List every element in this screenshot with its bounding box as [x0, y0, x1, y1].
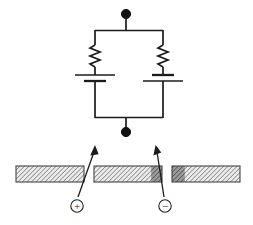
bar-left: [16, 166, 84, 182]
bar-right-segment-dark: [172, 166, 185, 182]
plus-charge-glyph: +: [74, 200, 80, 212]
circuit-and-bars-figure: + −: [0, 0, 253, 225]
bar-right-segment-light: [185, 166, 240, 182]
minus-charge-symbol: −: [159, 200, 171, 213]
figure-background: [0, 0, 253, 225]
bar-middle-segment-light: [94, 166, 151, 182]
bar-left-segment-light: [16, 166, 84, 182]
bar-right: [172, 166, 240, 182]
plus-charge-symbol: +: [71, 200, 83, 213]
bottom-terminal-node: [121, 127, 130, 136]
bar-middle: [94, 166, 162, 182]
figure-root: + −: [0, 0, 253, 225]
bars-group: [16, 166, 240, 182]
minus-charge-glyph: −: [162, 200, 168, 212]
